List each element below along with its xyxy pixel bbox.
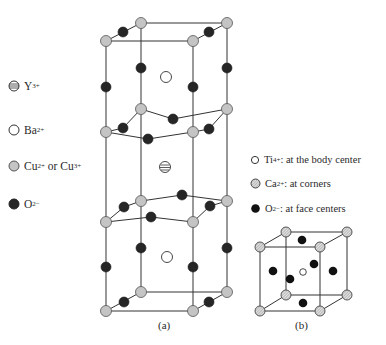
titanium-atom-b xyxy=(300,269,307,276)
caption-a: (a) xyxy=(158,319,170,331)
crystal-structures xyxy=(0,0,386,345)
caption-b: (b) xyxy=(295,319,308,331)
yttrium-atom-a xyxy=(160,162,171,173)
